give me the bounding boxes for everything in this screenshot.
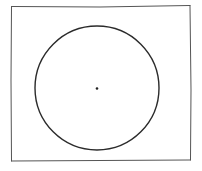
sketch-canvas [0, 0, 202, 171]
frame-rectangle [11, 6, 191, 162]
center-dot [96, 87, 99, 90]
